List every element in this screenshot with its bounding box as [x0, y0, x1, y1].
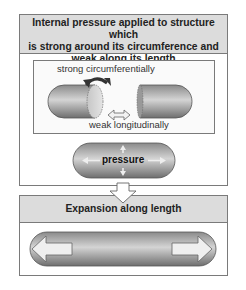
left-cylinder-half [48, 85, 103, 118]
expansion-capsule [30, 232, 216, 266]
label-weak-longitudinally: weak longitudinally [89, 119, 169, 130]
label-strong-circumferentially: strong circumferentially [57, 63, 155, 74]
down-arrow-icon [110, 183, 136, 203]
diagram-graphics [0, 0, 246, 290]
label-pressure: pressure [102, 154, 144, 165]
right-cylinder-half [137, 85, 192, 118]
